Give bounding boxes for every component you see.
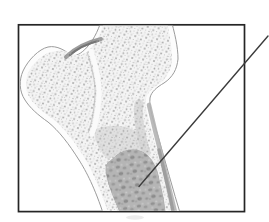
print-smudge xyxy=(126,215,144,219)
figure-panel xyxy=(0,0,269,222)
anatomical-illustration xyxy=(0,0,269,222)
